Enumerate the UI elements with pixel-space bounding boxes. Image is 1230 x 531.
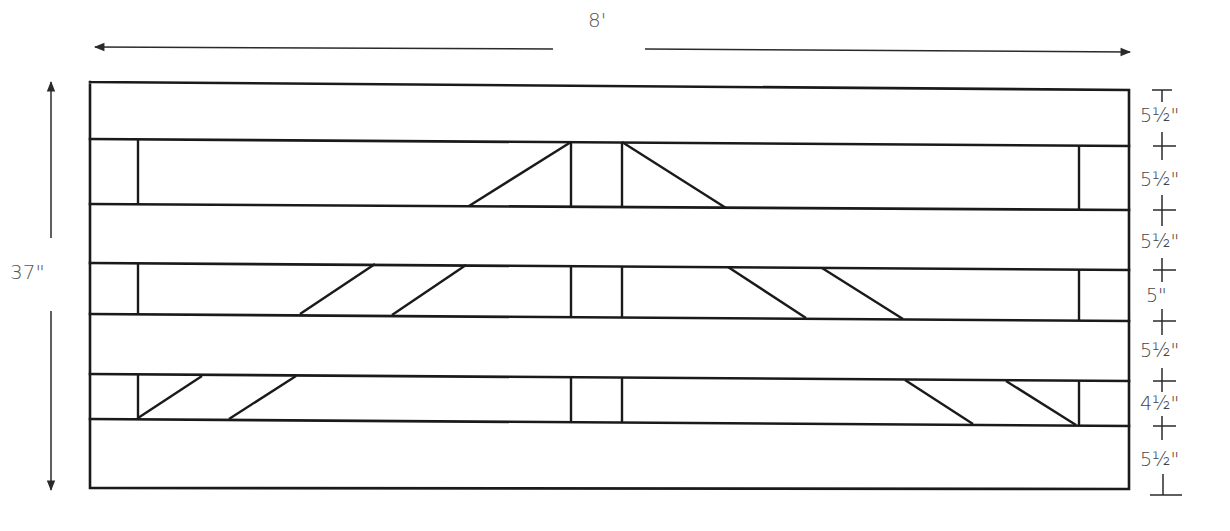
gate-drawing bbox=[0, 0, 1230, 531]
overall-height-label: 37" bbox=[10, 262, 45, 282]
top-board-lower-edge bbox=[90, 139, 1129, 146]
segment-label-top-board: 5½" bbox=[1140, 106, 1179, 125]
segment-label-gap-3: 4½" bbox=[1140, 394, 1179, 413]
segment-label-bottom-board: 5½" bbox=[1140, 450, 1179, 469]
diagonal-braces bbox=[138, 142, 1076, 425]
segment-label-board-3: 5½" bbox=[1140, 341, 1179, 360]
segment-label-gap-1: 5½" bbox=[1140, 170, 1179, 189]
uprights bbox=[138, 140, 1079, 425]
overall-width-label: 8' bbox=[588, 10, 606, 30]
segment-label-gap-2: 5" bbox=[1146, 286, 1167, 305]
segment-label-board-2: 5½" bbox=[1140, 232, 1179, 251]
gate-diagram: 8' 37" 5½" 5½" 5½" 5" 5½" 4½" 5½" bbox=[0, 0, 1230, 531]
gate-frame bbox=[90, 82, 1129, 489]
width-dimension-arrow bbox=[95, 47, 1130, 52]
